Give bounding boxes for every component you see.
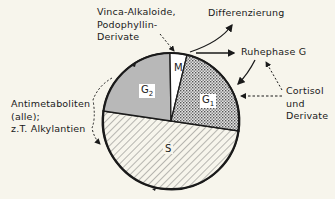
phase-s-label: S — [163, 143, 173, 154]
vinca-label: Vinca-Alkaloide, Podophyllin- Derivate — [97, 6, 176, 44]
phase-g1-label: G1 — [200, 94, 216, 108]
ruhephase-label: Ruhephase G — [241, 46, 306, 59]
phase-m-label: M — [172, 62, 185, 73]
phase-g2-label: G2 — [139, 84, 155, 98]
cortisol-arrow-ruhephase — [266, 62, 282, 90]
differenzierung-arrow — [190, 25, 232, 52]
antimetaboliten-label: Antimetaboliten (alle); z.T. Alkylantien — [11, 98, 90, 136]
cortisol-label: Cortisol und Derivate — [286, 85, 328, 123]
differenzierung-label: Differenzierung — [208, 7, 285, 20]
return-arrow — [238, 60, 255, 84]
